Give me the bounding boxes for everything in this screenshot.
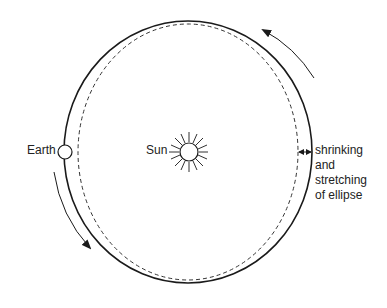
sun-disc bbox=[180, 143, 198, 161]
earth-label: Earth bbox=[27, 143, 56, 158]
earth-icon bbox=[58, 145, 72, 159]
eccentricity-note: shrinking and stretching of ellipse bbox=[315, 143, 385, 203]
sun-label: Sun bbox=[146, 143, 167, 158]
note-line: shrinking bbox=[315, 143, 385, 158]
note-line: and bbox=[315, 158, 385, 173]
note-line: stretching bbox=[315, 173, 385, 188]
note-line: of ellipse bbox=[315, 188, 385, 203]
orbit-direction-arrow-lower bbox=[54, 172, 90, 248]
